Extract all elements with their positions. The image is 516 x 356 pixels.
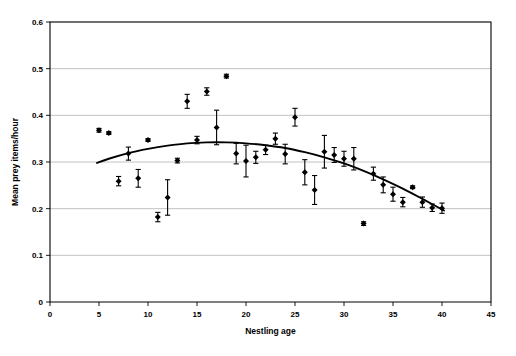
data-point-marker bbox=[331, 152, 337, 158]
x-tick-label: 35 bbox=[389, 310, 398, 319]
data-point-marker bbox=[321, 149, 327, 155]
data-point-marker bbox=[380, 182, 386, 188]
data-point-marker bbox=[341, 156, 347, 162]
data-point-marker bbox=[184, 98, 190, 104]
data-point-marker bbox=[410, 184, 416, 190]
data-point-marker bbox=[135, 175, 141, 181]
data-point-marker bbox=[243, 158, 249, 164]
error-bars bbox=[96, 74, 444, 225]
y-tick-label: 0.4 bbox=[32, 111, 44, 120]
y-tick-label: 0.1 bbox=[32, 251, 44, 260]
x-tick-label: 15 bbox=[193, 310, 202, 319]
x-axis-title: Nestling age bbox=[245, 326, 296, 336]
data-point-marker bbox=[263, 147, 269, 153]
y-tick-label: 0.3 bbox=[32, 158, 44, 167]
y-tick-label: 0.6 bbox=[32, 18, 44, 27]
data-point-marker bbox=[302, 169, 308, 175]
data-point-marker bbox=[125, 151, 131, 157]
x-tick-label: 40 bbox=[438, 310, 447, 319]
data-point-marker bbox=[233, 151, 239, 157]
y-axis-title: Mean prey items/hour bbox=[10, 117, 20, 206]
x-tick-label: 20 bbox=[242, 310, 251, 319]
x-tick-label: 5 bbox=[97, 310, 102, 319]
x-tick-label: 30 bbox=[340, 310, 349, 319]
data-point-marker bbox=[282, 151, 288, 157]
x-tick-label: 45 bbox=[487, 310, 496, 319]
data-point-marker bbox=[351, 156, 357, 162]
data-point-marker bbox=[116, 178, 122, 184]
data-point-marker bbox=[204, 89, 210, 95]
fit-curve-path bbox=[97, 142, 444, 210]
data-point-marker bbox=[145, 137, 151, 143]
y-axis-ticks: 00.10.20.30.40.50.6 bbox=[32, 18, 50, 307]
y-tick-label: 0.5 bbox=[32, 65, 44, 74]
gridlines bbox=[50, 22, 491, 255]
x-axis-ticks: 051015202530354045 bbox=[48, 302, 496, 319]
data-point-marker bbox=[165, 194, 171, 200]
data-point-marker bbox=[272, 136, 278, 142]
scatter-plot: 051015202530354045 00.10.20.30.40.50.6 N… bbox=[0, 0, 516, 356]
x-tick-label: 25 bbox=[291, 310, 300, 319]
fit-curve bbox=[97, 142, 444, 210]
data-point-marker bbox=[390, 191, 396, 197]
y-tick-label: 0 bbox=[39, 298, 44, 307]
chart-container: 051015202530354045 00.10.20.30.40.50.6 N… bbox=[0, 0, 516, 356]
data-points bbox=[96, 73, 445, 226]
data-point-marker bbox=[400, 199, 406, 205]
data-point-marker bbox=[312, 187, 318, 193]
data-point-marker bbox=[214, 124, 220, 130]
x-tick-label: 10 bbox=[144, 310, 153, 319]
data-point-marker bbox=[253, 154, 259, 160]
x-tick-label: 0 bbox=[48, 310, 53, 319]
y-tick-label: 0.2 bbox=[32, 205, 44, 214]
data-point-marker bbox=[106, 130, 112, 136]
data-point-marker bbox=[155, 214, 161, 220]
